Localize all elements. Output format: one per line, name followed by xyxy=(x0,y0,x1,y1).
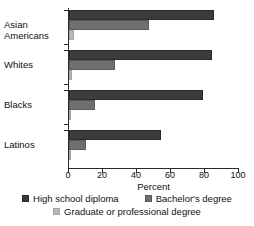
bar-high-school-diploma xyxy=(69,10,214,20)
x-tick-label-100: 100 xyxy=(230,170,245,181)
legend-label: Bachelor's degree xyxy=(156,193,232,204)
category-label-blacks: Blacks xyxy=(4,100,60,111)
y-tick-2 xyxy=(64,50,68,51)
x-tick-label-60: 60 xyxy=(165,170,175,181)
legend-item-bachelors-degree: Bachelor's degree xyxy=(145,193,232,204)
category-label-asian-americans: Asian Americans xyxy=(4,20,60,41)
axis-area xyxy=(68,8,239,169)
bar-graduate-degree xyxy=(69,30,74,40)
y-tick-4 xyxy=(64,90,68,91)
bar-graduate-degree xyxy=(69,70,72,80)
y-tick-5 xyxy=(64,124,68,125)
plot-area: Asian Americans Whites Blacks Latinos xyxy=(0,0,254,180)
bar-group-asian-americans xyxy=(69,10,239,44)
legend-swatch-icon xyxy=(145,195,152,202)
bar-bachelors-degree xyxy=(69,60,115,70)
legend-row-1: High school diploma Bachelor's degree xyxy=(0,193,254,204)
x-axis-line xyxy=(68,168,239,169)
bar-high-school-diploma xyxy=(69,90,203,100)
y-tick-1 xyxy=(64,44,68,45)
bar-chart: Asian Americans Whites Blacks Latinos xyxy=(0,0,254,226)
legend: High school diploma Bachelor's degree Gr… xyxy=(0,193,254,219)
bar-group-whites xyxy=(69,50,239,84)
legend-item-graduate-degree: Graduate or professional degree xyxy=(53,206,201,217)
bar-bachelors-degree xyxy=(69,100,95,110)
legend-item-high-school-diploma: High school diploma xyxy=(22,193,119,204)
y-tick-0 xyxy=(64,10,68,11)
bar-bachelors-degree xyxy=(69,140,86,150)
category-axis-labels: Asian Americans Whites Blacks Latinos xyxy=(0,8,64,168)
legend-label: High school diploma xyxy=(33,193,119,204)
legend-label: Graduate or professional degree xyxy=(64,206,201,217)
category-label-whites: Whites xyxy=(4,60,60,71)
x-tick-label-0: 0 xyxy=(65,170,70,181)
y-tick-3 xyxy=(64,84,68,85)
bar-bachelors-degree xyxy=(69,20,149,30)
y-tick-6 xyxy=(64,130,68,131)
x-tick-label-40: 40 xyxy=(131,170,141,181)
legend-swatch-icon xyxy=(22,195,29,202)
bar-high-school-diploma xyxy=(69,50,212,60)
legend-row-2: Graduate or professional degree xyxy=(0,206,254,217)
category-label-latinos: Latinos xyxy=(4,140,60,151)
bar-graduate-degree xyxy=(69,150,71,160)
x-axis-title: Percent xyxy=(68,181,239,192)
bar-group-latinos xyxy=(69,130,239,164)
bar-high-school-diploma xyxy=(69,130,161,140)
x-tick-label-20: 20 xyxy=(97,170,107,181)
bar-group-blacks xyxy=(69,90,239,124)
bar-graduate-degree xyxy=(69,110,71,120)
legend-swatch-icon xyxy=(53,208,60,215)
x-tick-label-80: 80 xyxy=(199,170,209,181)
